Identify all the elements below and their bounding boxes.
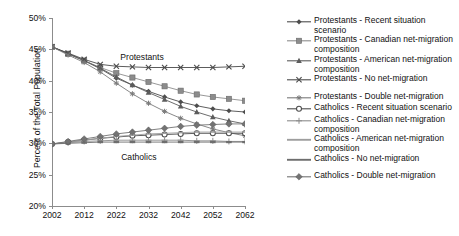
series-marker-asterisk bbox=[162, 109, 167, 114]
series-marker-diamond-large bbox=[242, 121, 245, 128]
legend-item[interactable]: Catholics - Canadian net-migration compo… bbox=[286, 115, 459, 134]
series-marker-square-filled bbox=[146, 79, 151, 84]
series-marker-asterisk bbox=[178, 116, 183, 121]
series-marker-plus bbox=[296, 118, 302, 124]
y-tick-label: 25% bbox=[29, 170, 46, 179]
x-tick-label: 2022 bbox=[107, 211, 126, 220]
x-tick-label: 2042 bbox=[171, 211, 190, 220]
series-marker-square-filled bbox=[296, 39, 301, 44]
series-marker-square-filled bbox=[130, 75, 135, 80]
series-lines bbox=[52, 18, 245, 206]
legend-item[interactable]: Catholics - No net-migration bbox=[286, 154, 459, 166]
legend-label: Catholics - American net-migration compo… bbox=[312, 134, 459, 153]
y-tick-label: 50% bbox=[29, 14, 46, 23]
series-marker-diamond-filled bbox=[210, 106, 215, 111]
legend-marker-diamond-large-icon bbox=[286, 171, 312, 183]
series-marker-asterisk bbox=[146, 101, 151, 106]
series-marker-square-filled bbox=[162, 84, 167, 89]
legend-label: Protestants - No net-migration bbox=[312, 74, 427, 84]
legend-label: Catholics - Canadian net-migration compo… bbox=[312, 115, 459, 134]
series-marker-square-filled bbox=[226, 96, 231, 101]
series-3 bbox=[52, 44, 245, 70]
legend-label: Protestants - Double net-migration bbox=[312, 92, 443, 102]
y-tick-label: 45% bbox=[29, 45, 46, 54]
x-tick-mark bbox=[116, 206, 117, 209]
legend-item[interactable]: Catholics - Double net-migration bbox=[286, 171, 459, 183]
legend-label: Catholics - Recent situation scenario bbox=[312, 103, 452, 113]
x-tick-label: 2002 bbox=[42, 211, 61, 220]
x-tick-mark bbox=[213, 206, 214, 209]
legend-item[interactable]: Protestants - Canadian net-migration com… bbox=[286, 35, 459, 54]
series-marker-diamond-large bbox=[145, 127, 152, 134]
legend-label: Catholics - No net-migration bbox=[312, 154, 419, 164]
chart-legend: Protestants - Recent situation scenarioP… bbox=[286, 16, 459, 183]
legend-marker-plus-icon bbox=[286, 115, 312, 127]
series-marker-square-filled bbox=[194, 92, 199, 97]
legend-label: Protestants - Canadian net-migration com… bbox=[312, 35, 459, 54]
x-tick-label: 2062 bbox=[235, 211, 254, 220]
series-marker-circle-open bbox=[297, 107, 302, 112]
series-marker-diamond-filled bbox=[296, 19, 301, 24]
x-tick-mark bbox=[245, 206, 246, 209]
y-tick-label: 40% bbox=[29, 76, 46, 85]
x-tick-label: 2012 bbox=[75, 211, 94, 220]
x-tick-mark bbox=[181, 206, 182, 209]
series-marker-asterisk bbox=[296, 95, 301, 100]
legend-marker-asterisk-icon bbox=[286, 92, 312, 104]
series-marker-square-filled bbox=[178, 88, 183, 93]
legend-item[interactable]: Protestants - American net-migration com… bbox=[286, 55, 459, 74]
x-tick-mark bbox=[52, 206, 53, 209]
x-tick-mark bbox=[84, 206, 85, 209]
series-8 bbox=[52, 142, 245, 144]
series-marker-asterisk bbox=[114, 81, 119, 86]
series-marker-asterisk bbox=[98, 69, 103, 74]
legend-marker-square-filled-icon bbox=[286, 35, 312, 47]
series-marker-diamond-large bbox=[296, 174, 303, 181]
legend-marker-dash-icon bbox=[286, 134, 312, 146]
series-marker-square-filled bbox=[210, 94, 215, 99]
legend-marker-triangle-filled-icon bbox=[286, 55, 312, 67]
series-marker-diamond-large bbox=[161, 125, 168, 132]
legend-marker-circle-open-icon bbox=[286, 103, 312, 115]
legend-item[interactable]: Protestants - No net-migration bbox=[286, 74, 459, 86]
legend-item[interactable]: Catholics - American net-migration compo… bbox=[286, 134, 459, 153]
series-marker-diamond-large bbox=[177, 123, 184, 130]
legend-marker-cross-x-icon bbox=[286, 74, 312, 86]
x-tick-label: 2032 bbox=[139, 211, 158, 220]
y-tick-label: 35% bbox=[29, 108, 46, 117]
series-marker-diamond-filled bbox=[226, 108, 231, 113]
chart-figure: Percent of the Total Population 50%45%40… bbox=[0, 0, 459, 236]
x-tick-label: 2052 bbox=[203, 211, 222, 220]
series-marker-square-filled bbox=[242, 98, 245, 103]
series-2 bbox=[52, 44, 245, 126]
legend-item[interactable]: Protestants - Recent situation scenario bbox=[286, 16, 459, 35]
series-marker-diamond-large bbox=[210, 121, 217, 128]
series-marker-diamond-filled bbox=[242, 109, 245, 114]
series-marker-asterisk bbox=[130, 91, 135, 96]
y-tick-label: 30% bbox=[29, 139, 46, 148]
series-marker-diamond-filled bbox=[194, 103, 199, 108]
legend-label: Protestants - Recent situation scenario bbox=[312, 16, 459, 35]
series-marker-asterisk bbox=[82, 60, 87, 65]
legend-marker-diamond-filled-icon bbox=[286, 16, 312, 28]
legend-label: Protestants - American net-migration com… bbox=[312, 55, 459, 74]
legend-marker-dash-thick-icon bbox=[286, 154, 312, 166]
plot-area: 50%45%40%35%30%25%20% 200220122022203220… bbox=[52, 18, 245, 206]
y-tick-label: 20% bbox=[29, 202, 46, 211]
x-tick-mark bbox=[149, 206, 150, 209]
series-marker-asterisk bbox=[65, 52, 70, 57]
legend-label: Catholics - Double net-migration bbox=[312, 171, 435, 181]
